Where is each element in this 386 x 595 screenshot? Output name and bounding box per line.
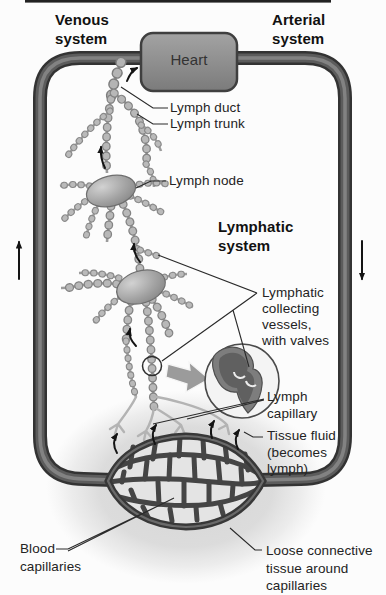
collecting-vessels-label: Lymphatic collecting vessels, with valve… (262, 285, 329, 349)
venous-system-label: Venous system (55, 10, 109, 48)
lymphatic-system-figure: Venous system Arterial system Heart Lymp… (0, 0, 386, 595)
lymph-duct-label: Lymph duct (170, 100, 240, 117)
blood-capillaries-label: Blood capillaries (20, 540, 81, 576)
lymphatic-system-heading: Lymphatic system (218, 217, 293, 255)
lymph-trunk-label: Lymph trunk (170, 116, 245, 133)
lymph-node-label: Lymph node (169, 173, 244, 190)
heart-label: Heart (141, 52, 237, 69)
lymph-capillary-label: Lymph capillary (267, 389, 317, 422)
top-edge-strip (25, 0, 331, 3)
arterial-system-label: Arterial system (272, 10, 325, 48)
tissue-fluid-label: Tissue fluid (becomes lymph) (267, 428, 336, 478)
loose-connective-label: Loose connective tissue around capillari… (266, 542, 373, 595)
capillary-bed (108, 436, 263, 527)
